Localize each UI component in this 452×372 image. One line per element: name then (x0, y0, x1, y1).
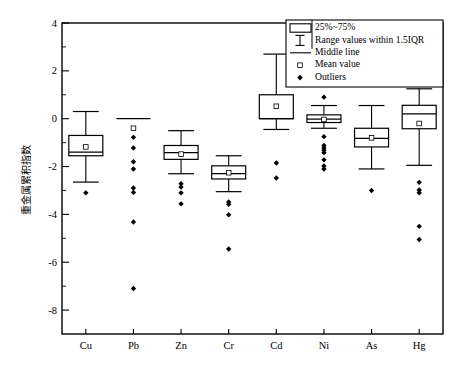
x-axis: CuPbZnCrCdNiAsHg (80, 329, 427, 351)
outlier-point (131, 286, 136, 291)
outlier-point (83, 190, 88, 195)
outlier-point (321, 157, 326, 162)
outlier-point (226, 246, 231, 251)
mean-marker (274, 104, 279, 109)
boxplot-cu (69, 112, 103, 196)
y-tick-label: -8 (48, 305, 57, 316)
y-tick-label: -2 (48, 161, 57, 172)
legend-label: Middle line (315, 46, 360, 57)
boxplot-ni (307, 94, 341, 171)
outlier-point (131, 145, 136, 150)
x-tick-label-ni: Ni (319, 340, 330, 351)
outlier-point (178, 201, 183, 206)
legend-label: Mean value (315, 58, 360, 69)
y-axis: 420-2-4-6-8 (48, 18, 69, 316)
outlier-point (416, 237, 421, 242)
legend-label: Outliers (315, 71, 346, 82)
y-axis-title: 重金属累积指数 (20, 145, 32, 215)
outlier-point (131, 159, 136, 164)
y-tick-label: 2 (52, 65, 57, 76)
legend-label: Range values within 1.5IQR (315, 34, 425, 45)
y-tick-label: -4 (48, 209, 57, 220)
x-tick-label-cr: Cr (223, 340, 234, 351)
outlier-point (131, 135, 136, 140)
legend-entry-whisker: Range values within 1.5IQR (296, 34, 425, 46)
outlier-point (321, 134, 326, 139)
outlier-point (416, 180, 421, 185)
mean-marker (417, 121, 422, 126)
outlier-point (416, 224, 421, 229)
outlier-point (274, 160, 279, 165)
outlier-point (226, 212, 231, 217)
legend-icon-box (290, 24, 311, 32)
chart-container: 420-2-4-6-8 CuPbZnCrCdNiAsHg 重金属累积指数 25%… (0, 0, 452, 372)
box-series-group (69, 54, 436, 291)
outlier-point (416, 190, 421, 195)
y-tick-label: 4 (52, 18, 58, 29)
outlier-point (321, 166, 326, 171)
mean-marker (131, 126, 136, 131)
outlier-point (321, 94, 326, 99)
outlier-point (131, 166, 136, 171)
x-tick-label-hg: Hg (413, 340, 427, 351)
boxplot-cr (212, 156, 246, 252)
boxplot-as (355, 106, 389, 194)
outlier-point (178, 190, 183, 195)
outlier-point (369, 188, 374, 193)
x-tick-label-zn: Zn (175, 340, 187, 351)
chart-legend: 25%~75%Range values within 1.5IQRMiddle … (286, 20, 443, 87)
x-tick-label-cu: Cu (80, 340, 93, 351)
outlier-point (274, 175, 279, 180)
mean-marker (369, 136, 374, 141)
outlier-point (131, 219, 136, 224)
boxplot-pb (116, 119, 150, 292)
mean-marker (226, 170, 231, 175)
x-tick-label-as: As (366, 340, 378, 351)
mean-marker (179, 152, 184, 157)
y-tick-label: -6 (48, 257, 57, 268)
legend-icon-mean-square (298, 63, 303, 68)
x-tick-label-cd: Cd (270, 340, 283, 351)
mean-marker (84, 145, 89, 150)
mean-marker (322, 117, 327, 122)
outlier-point (131, 190, 136, 195)
box-plot-svg: 420-2-4-6-8 CuPbZnCrCdNiAsHg 重金属累积指数 25%… (0, 0, 452, 372)
boxplot-zn (164, 131, 198, 207)
y-axis-title-text: 重金属累积指数 (20, 145, 32, 215)
x-tick-label-pb: Pb (128, 340, 139, 351)
legend-label: 25%~75% (315, 21, 355, 32)
outlier-point (178, 184, 183, 189)
y-tick-label: 0 (52, 113, 57, 124)
boxplot-hg (402, 89, 436, 242)
